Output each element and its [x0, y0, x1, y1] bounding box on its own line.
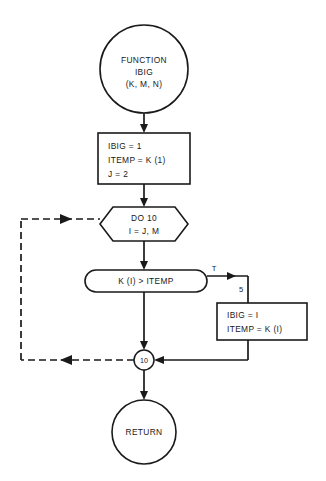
junction-label: 10 [140, 356, 148, 365]
init-line-1: IBIG = 1 [108, 141, 142, 151]
start-line-2: IBIG [135, 67, 153, 77]
loop-line-1: DO 10 [131, 213, 157, 223]
edge-decision-false-to-junction [140, 292, 148, 350]
update-line-1: IBIG = I [227, 310, 258, 320]
node-junction-10[interactable]: 10 [134, 350, 154, 370]
node-start-function[interactable]: FUNCTION IBIG (K, M, N) [100, 25, 188, 113]
node-return[interactable]: RETURN [112, 400, 176, 464]
flowchart-svg: FUNCTION IBIG (K, M, N) IBIG = 1 ITEMP =… [0, 0, 326, 481]
flowchart-canvas: FUNCTION IBIG (K, M, N) IBIG = 1 ITEMP =… [0, 0, 326, 481]
loop-line-2: I = J, M [129, 226, 160, 236]
init-line-2: ITEMP = K (1) [108, 155, 166, 165]
edge-loop-to-decision [140, 241, 148, 270]
node-decision-compare[interactable]: K (I) > ITEMP [85, 270, 207, 292]
node-update-process[interactable]: IBIG = I ITEMP = K (I) [217, 303, 307, 340]
node-do-loop[interactable]: DO 10 I = J, M [100, 207, 188, 241]
edge-junction-to-return [140, 370, 148, 400]
init-line-3: J = 2 [108, 169, 128, 179]
start-line-1: FUNCTION [121, 55, 167, 65]
return-label: RETURN [126, 427, 163, 437]
edge-update-to-junction [154, 340, 248, 364]
edge-init-to-loop [140, 184, 148, 207]
update-line-2: ITEMP = K (I) [227, 324, 282, 334]
start-line-3: (K, M, N) [126, 79, 163, 89]
edge-label-statement-5: 5 [239, 285, 243, 294]
edge-label-true: T [212, 264, 217, 273]
decision-label: K (I) > ITEMP [118, 276, 174, 286]
node-init-process[interactable]: IBIG = 1 ITEMP = K (1) J = 2 [98, 133, 190, 184]
